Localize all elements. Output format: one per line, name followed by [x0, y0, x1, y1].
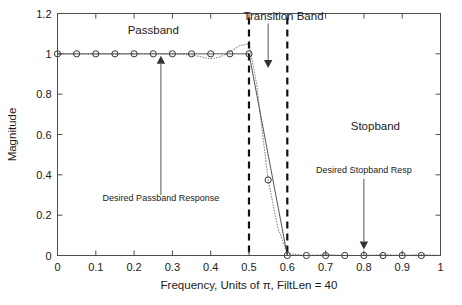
x-tick-label: 0.3 [165, 261, 180, 273]
x-tick-label: 0.5 [241, 261, 256, 273]
y-tick-label: 0.4 [36, 169, 51, 181]
annotation-transition-band: Transition Band [243, 10, 323, 22]
plot-frame [58, 14, 441, 256]
y-tick-label: 0 [45, 250, 51, 262]
x-tick-label: 0.2 [126, 261, 141, 273]
passband-arrow-head [157, 56, 165, 64]
stopband-arrow-head [360, 241, 368, 249]
tick-label-layer: 00.10.20.30.40.50.60.70.80.9100.20.40.60… [36, 8, 443, 273]
y-tick-label: 1 [45, 48, 51, 60]
y-axis-title: Magnitude [6, 108, 18, 162]
x-tick-label: 0.9 [395, 261, 410, 273]
annotation-passband: Passband [128, 24, 179, 36]
transition-band-arrow-head [264, 60, 272, 68]
marker-layer [54, 51, 424, 259]
x-tick-label: 0.6 [280, 261, 295, 273]
x-tick-label: 1 [437, 261, 443, 273]
x-tick-label: 0.1 [88, 261, 103, 273]
annotation-desired-passband-response: Desired Passband Response [103, 193, 220, 203]
x-tick-label: 0.8 [356, 261, 371, 273]
y-tick-label: 1.2 [36, 8, 51, 20]
annotation-desired-stopband-resp: Desired Stopband Resp [316, 165, 412, 175]
y-tick-label: 0.8 [36, 88, 51, 100]
tick-layer [58, 14, 441, 256]
y-tick-label: 0.6 [36, 129, 51, 141]
axes-frame [58, 14, 441, 256]
annotation-text-layer: PassbandTransition BandStopbandDesired P… [103, 10, 412, 204]
x-axis-title: Frequency, Units of π, FiltLen = 40 [161, 279, 338, 291]
x-tick-label: 0 [54, 261, 60, 273]
y-tick-label: 0.2 [36, 209, 51, 221]
figure-container: 00.10.20.30.40.50.60.70.80.9100.20.40.60… [0, 0, 462, 305]
x-tick-label: 0.7 [318, 261, 333, 273]
annotation-stopband: Stopband [351, 120, 400, 132]
filter-response-chart: 00.10.20.30.40.50.60.70.80.9100.20.40.60… [0, 0, 462, 305]
x-tick-label: 0.4 [203, 261, 218, 273]
